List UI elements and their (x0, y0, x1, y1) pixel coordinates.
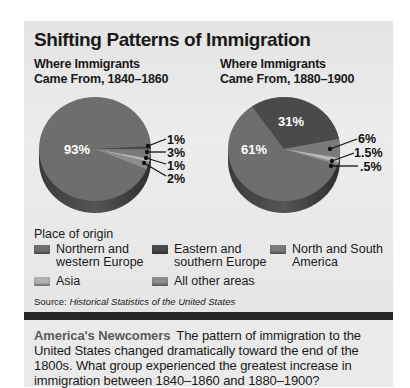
pie1-label-americas: 3% (167, 146, 185, 160)
pie2-label-main: 61% (241, 142, 267, 157)
pie2: 31% 61% 6% 1.5% .5% (228, 97, 383, 213)
pie2-label-other: .5% (360, 160, 382, 174)
pie1-label-main: 93% (64, 142, 90, 157)
pie1-label-other: 2% (167, 172, 185, 186)
pie1-label-eastern: 1% (167, 133, 185, 147)
caption-heading: America's Newcomers (34, 328, 170, 343)
pie-charts: 93% 1% 3% 1% 2% (24, 21, 393, 221)
pie1: 93% 1% 3% 1% 2% (39, 97, 185, 213)
source-prefix: Source: (34, 296, 69, 307)
pie1-label-asia: 1% (167, 159, 185, 173)
legend-label: Asia (56, 275, 80, 288)
legend-label: western Europe (56, 256, 144, 269)
legend-item-north-south-america: North and SouthAmerica (270, 243, 383, 269)
legend-swatch (34, 245, 50, 254)
source-title: Historical Statistics of the United Stat… (69, 296, 235, 307)
pie2-label-eastern: 31% (278, 114, 304, 129)
source-note: Source: Historical Statistics of the Uni… (34, 296, 235, 307)
legend-swatch (152, 245, 168, 254)
legend-label: All other areas (174, 275, 255, 288)
legend-label: America (292, 256, 383, 269)
legend-item-northern-western-europe: Northern andwestern Europe (34, 243, 144, 269)
legend-swatch (152, 277, 168, 286)
caption-box: America's NewcomersThe pattern of immigr… (24, 320, 393, 387)
legend-swatch (34, 277, 50, 286)
legend-title: Place of origin (34, 227, 113, 241)
caption-text: America's NewcomersThe pattern of immigr… (34, 328, 383, 388)
divider-bar (24, 312, 393, 320)
chart-panel: Shifting Patterns of Immigration Where I… (24, 21, 393, 312)
legend-label: southern Europe (174, 256, 266, 269)
pie2-label-asia: 1.5% (354, 146, 383, 160)
pie2-label-americas: 6% (358, 132, 376, 146)
legend-item-asia: Asia (34, 275, 80, 288)
legend-swatch (270, 245, 286, 254)
legend-item-eastern-southern-europe: Eastern andsouthern Europe (152, 243, 266, 269)
legend-item-all-other-areas: All other areas (152, 275, 255, 288)
